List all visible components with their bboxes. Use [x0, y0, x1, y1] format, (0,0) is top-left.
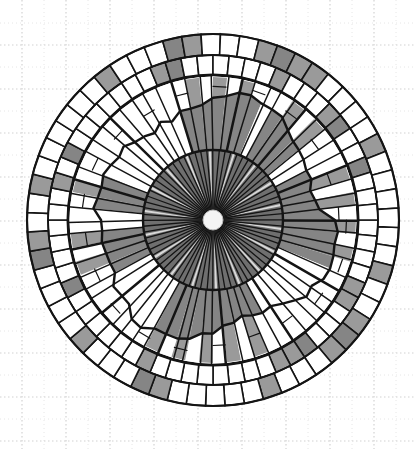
- hub-circle: [203, 210, 223, 230]
- cell: [27, 213, 48, 232]
- center-hub: [203, 210, 223, 230]
- grid-paper-drawing: [0, 0, 416, 449]
- cell: [206, 385, 225, 406]
- cell: [224, 383, 245, 406]
- shaded-cell: [182, 34, 203, 57]
- cell: [197, 55, 213, 76]
- shaded-cell: [27, 231, 50, 252]
- cell: [213, 364, 229, 385]
- radial-mandala: [27, 34, 399, 406]
- cell: [48, 220, 69, 236]
- cell: [378, 208, 399, 227]
- cell: [376, 189, 399, 210]
- cell: [357, 204, 378, 220]
- cell: [201, 34, 220, 55]
